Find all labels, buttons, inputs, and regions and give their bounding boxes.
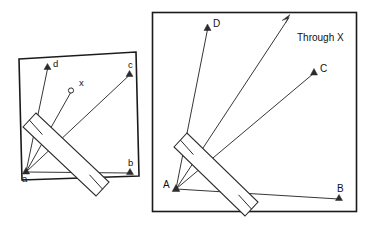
diagram-canvas: a d x c b A D C B T bbox=[0, 0, 368, 226]
point-marker-b bbox=[127, 169, 134, 175]
point-marker-C bbox=[311, 69, 318, 76]
label-point-B: B bbox=[337, 183, 344, 194]
point-marker-c bbox=[126, 71, 133, 77]
label-point-A: A bbox=[163, 179, 170, 190]
label-point-D: D bbox=[213, 18, 220, 29]
label-through-x: Through X bbox=[297, 32, 344, 43]
ray-A-to-C bbox=[176, 74, 314, 190]
through-x-arrowhead bbox=[282, 15, 290, 24]
label-point-C: C bbox=[320, 63, 327, 74]
point-marker-d bbox=[44, 64, 51, 70]
label-point-c: c bbox=[128, 59, 133, 70]
point-marker-x bbox=[68, 88, 73, 93]
point-marker-B bbox=[336, 195, 343, 201]
point-marker-D bbox=[204, 24, 211, 31]
right-ruler-body bbox=[174, 133, 258, 216]
left-diagram-panel: a d x c b bbox=[19, 52, 139, 196]
right-panel-straightedge bbox=[174, 133, 258, 216]
ray-A-to-B bbox=[176, 189, 339, 199]
label-point-a: a bbox=[22, 173, 28, 184]
label-point-x: x bbox=[79, 77, 84, 88]
right-diagram-panel: A D C B Through X bbox=[153, 13, 357, 217]
label-point-d: d bbox=[53, 58, 58, 69]
label-point-b: b bbox=[128, 157, 133, 168]
